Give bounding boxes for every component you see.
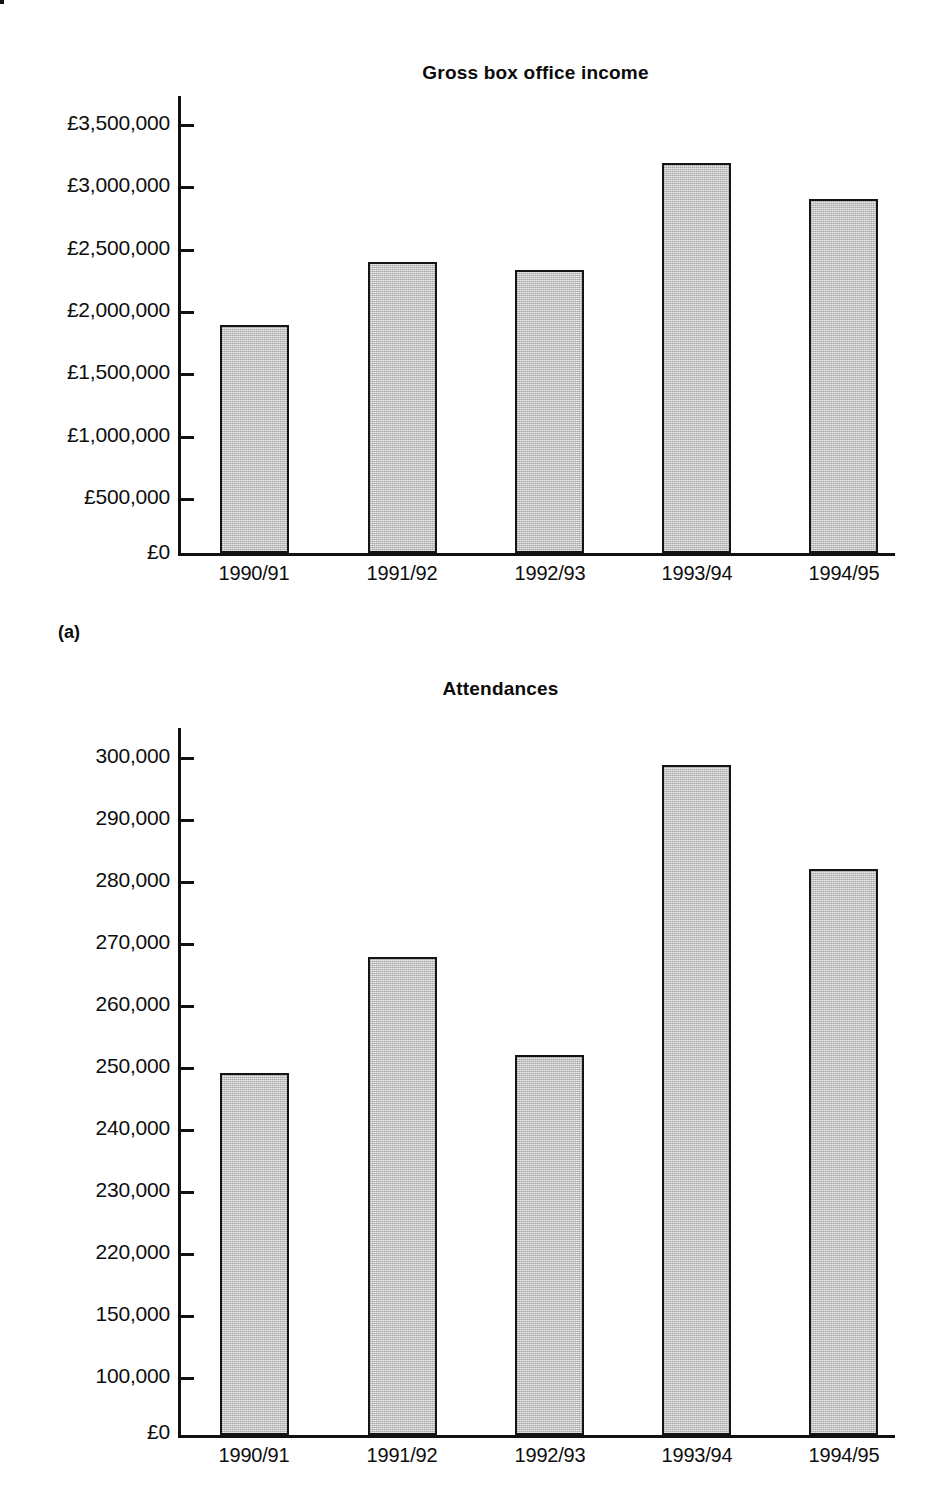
y-tick-label-0: £0 (0, 540, 170, 564)
y-tick-mark-280000 (181, 881, 194, 884)
chart-title-attendances: Attendances (0, 678, 941, 700)
y-tick-label-0-panel-b: £0 (0, 1420, 170, 1444)
y-axis-line-panel-a (178, 96, 181, 556)
y-tick-label-260000: 260,000 (0, 992, 170, 1016)
y-tick-mark-220000 (181, 1253, 194, 1256)
y-tick-mark-150000 (181, 1315, 194, 1318)
y-axis-line-panel-b (178, 728, 181, 1438)
bar-1990-91-panel-a (220, 325, 289, 553)
bar-1993-94-panel-a (662, 163, 731, 553)
y-tick-mark-2500000 (181, 249, 194, 252)
x-tick-label-1992-93-panel-a: 1992/93 (476, 562, 624, 585)
y-tick-label-240000: 240,000 (0, 1116, 170, 1140)
chart-title-gross-box-office-income: Gross box office income (0, 62, 941, 84)
y-tick-mark-1000000 (181, 436, 194, 439)
bar-1990-91-panel-b (220, 1073, 289, 1435)
bar-1994-95-panel-b (809, 869, 878, 1435)
y-tick-mark-250000 (181, 1067, 194, 1070)
y-tick-label-3500000: £3,500,000 (0, 111, 170, 135)
y-tick-label-250000: 250,000 (0, 1054, 170, 1078)
y-tick-label-280000: 280,000 (0, 868, 170, 892)
y-tick-label-1000000: £1,000,000 (0, 423, 170, 447)
y-tick-mark-230000 (181, 1191, 194, 1194)
x-tick-label-1993-94-panel-b: 1993/94 (623, 1444, 771, 1467)
x-axis-line-panel-a (178, 553, 895, 556)
y-tick-mark-100000 (181, 1377, 194, 1380)
x-tick-label-1994-95-panel-a: 1994/95 (770, 562, 918, 585)
y-tick-label-2000000: £2,000,000 (0, 298, 170, 322)
x-tick-label-1990-91-panel-a: 1990/91 (180, 562, 328, 585)
x-tick-label-1992-93-panel-b: 1992/93 (476, 1444, 624, 1467)
y-tick-label-300000: 300,000 (0, 744, 170, 768)
y-tick-mark-500000 (181, 498, 194, 501)
bar-1991-92-panel-a (368, 262, 437, 553)
x-tick-label-1994-95-panel-b: 1994/95 (770, 1444, 918, 1467)
y-tick-mark-300000 (181, 757, 194, 760)
y-tick-label-3000000: £3,000,000 (0, 173, 170, 197)
y-tick-mark-1500000 (181, 373, 194, 376)
y-tick-label-1500000: £1,500,000 (0, 360, 170, 384)
y-tick-mark-2000000 (181, 311, 194, 314)
bar-1992-93-panel-b (515, 1055, 584, 1435)
y-tick-label-150000: 150,000 (0, 1302, 170, 1326)
x-tick-label-1991-92-panel-a: 1991/92 (328, 562, 476, 585)
y-tick-label-290000: 290,000 (0, 806, 170, 830)
bar-1991-92-panel-b (368, 957, 437, 1435)
bar-1993-94-panel-b (662, 765, 731, 1435)
y-tick-mark-270000 (181, 943, 194, 946)
y-tick-label-270000: 270,000 (0, 930, 170, 954)
y-tick-label-230000: 230,000 (0, 1178, 170, 1202)
y-tick-mark-240000 (181, 1129, 194, 1132)
bar-1992-93-panel-a (515, 270, 584, 553)
y-tick-label-100000: 100,000 (0, 1364, 170, 1388)
bar-1994-95-panel-a (809, 199, 878, 553)
x-axis-line-panel-b (178, 1435, 895, 1438)
x-tick-label-1991-92-panel-b: 1991/92 (328, 1444, 476, 1467)
x-tick-label-1990-91-panel-b: 1990/91 (180, 1444, 328, 1467)
y-tick-mark-290000 (181, 819, 194, 822)
y-tick-mark-260000 (181, 1005, 194, 1008)
y-tick-label-500000: £500,000 (0, 485, 170, 509)
y-tick-label-220000: 220,000 (0, 1240, 170, 1264)
y-tick-mark-3000000 (181, 186, 194, 189)
panel-caption-a: (a) (58, 622, 80, 643)
x-tick-label-1993-94-panel-a: 1993/94 (623, 562, 771, 585)
y-tick-mark-3500000 (181, 124, 194, 127)
y-tick-label-2500000: £2,500,000 (0, 236, 170, 260)
